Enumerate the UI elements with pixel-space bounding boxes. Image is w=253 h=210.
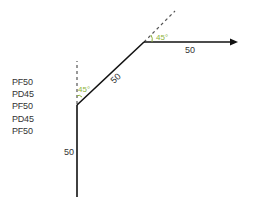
angle-label-2: 45° xyxy=(156,33,168,42)
angle-label-1: 45° xyxy=(78,85,90,94)
turtle-path-diagram: 45° 45° 50 50 50 xyxy=(0,0,253,210)
arrowhead-icon xyxy=(230,39,238,46)
angle-arc-1 xyxy=(77,95,82,97)
segment-label-vertical: 50 xyxy=(64,147,74,157)
segment-diagonal xyxy=(77,42,144,105)
angle-arc-2 xyxy=(151,35,152,42)
segment-label-horizontal: 50 xyxy=(185,45,195,55)
